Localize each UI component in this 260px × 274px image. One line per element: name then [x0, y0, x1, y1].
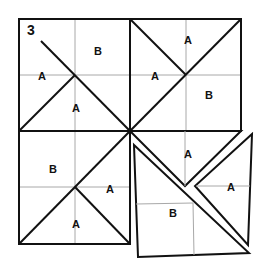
label-bottom-right-a-right: A [227, 181, 235, 193]
label-bottom-left-a-bottom: A [72, 218, 80, 230]
figure-number: 3 [27, 22, 35, 38]
label-top-right-a-top: A [184, 34, 192, 46]
label-bottom-right-a-top: A [184, 148, 192, 160]
folding-puzzle-diagram: 3 B A A A A B B A A A A B [0, 0, 260, 274]
label-bottom-left-a-right: A [106, 183, 114, 195]
label-top-left-a-bottom: A [72, 102, 80, 114]
label-top-right-b: B [205, 89, 213, 101]
center-vertex [128, 129, 133, 134]
label-top-right-a-left: A [151, 70, 159, 82]
label-bottom-right-b: B [169, 207, 177, 219]
label-bottom-left-b: B [49, 163, 57, 175]
label-top-left-a-left: A [38, 70, 46, 82]
label-top-left-b: B [94, 45, 102, 57]
